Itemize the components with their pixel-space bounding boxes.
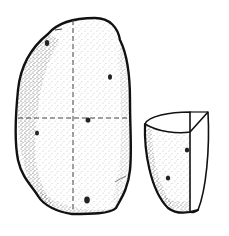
potato-illustration — [0, 0, 229, 236]
eye-icon — [84, 197, 90, 204]
whole-potato — [0, 0, 140, 230]
seed-piece — [140, 110, 209, 220]
seed-piece-side-face — [190, 112, 209, 212]
eye-icon — [185, 147, 189, 152]
eye-icon — [166, 175, 170, 180]
eye-icon — [86, 117, 91, 122]
eye-icon — [108, 74, 112, 80]
eye-icon — [35, 130, 39, 135]
eye-icon — [45, 40, 49, 46]
